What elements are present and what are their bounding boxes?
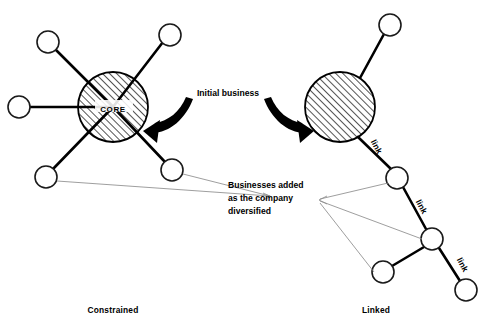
caption-constrained: Constrained bbox=[87, 305, 138, 315]
core-label: CORE bbox=[100, 105, 126, 114]
arrow-left-curved bbox=[143, 97, 193, 143]
node-top[interactable] bbox=[379, 14, 401, 36]
link-label-1: link bbox=[369, 138, 385, 156]
edge-chain-2-branch-a bbox=[392, 247, 424, 266]
node-upper-right[interactable] bbox=[159, 24, 181, 46]
constrained-diagram: CORE bbox=[8, 24, 183, 188]
node-chain-2[interactable] bbox=[421, 228, 443, 250]
node-chain-1[interactable] bbox=[386, 167, 408, 189]
leader-to-linked-chain-1 bbox=[320, 183, 388, 199]
diagram-canvas: CORE bbox=[0, 0, 489, 329]
annotation-line-2: as the company bbox=[228, 193, 293, 203]
node-left[interactable] bbox=[8, 96, 30, 118]
node-branch-a[interactable] bbox=[372, 261, 394, 283]
node-lower-left[interactable] bbox=[35, 166, 57, 188]
diagram-root: CORE bbox=[0, 0, 489, 329]
link-labels: link link link bbox=[369, 138, 471, 274]
edge-chain-2-branch-b bbox=[439, 248, 460, 281]
annotation-block: Businesses added as the company diversif… bbox=[228, 180, 303, 216]
annotation-line-3: diversified bbox=[228, 206, 271, 216]
leader-to-linked-chain-2 bbox=[320, 201, 422, 239]
annotation-line-1: Businesses added bbox=[228, 180, 303, 190]
node-lower-right[interactable] bbox=[161, 159, 183, 181]
linked-core-circle[interactable] bbox=[305, 72, 375, 142]
node-branch-b[interactable] bbox=[455, 279, 477, 301]
initial-business-label: Initial business bbox=[197, 88, 259, 98]
link-label-3: link bbox=[455, 256, 471, 274]
linked-diagram: link link link bbox=[305, 14, 477, 301]
node-upper-left[interactable] bbox=[37, 31, 59, 53]
edge-core-node-top bbox=[360, 34, 384, 78]
linked-edges bbox=[358, 34, 460, 281]
caption-linked: Linked bbox=[362, 305, 390, 315]
leader-to-linked-branch-a bbox=[320, 203, 374, 272]
